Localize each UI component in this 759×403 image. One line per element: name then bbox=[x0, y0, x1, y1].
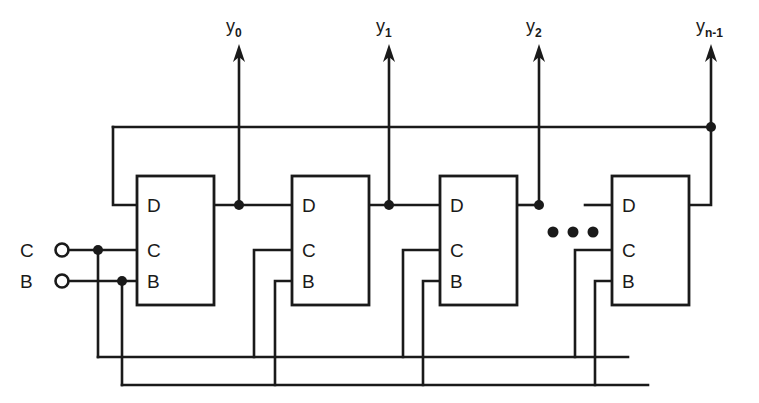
ellipsis-dot-3 bbox=[588, 227, 599, 238]
output-label-y1-sub: 1 bbox=[385, 26, 392, 40]
pin-labels-group: D C B D C B D C B D C B bbox=[147, 195, 636, 292]
output-label-y2: y2 bbox=[526, 16, 542, 40]
input-labels-group: C B bbox=[20, 240, 34, 292]
ff1-b-route bbox=[275, 281, 292, 385]
output-label-y0: y0 bbox=[226, 16, 242, 40]
junction-q2-tap bbox=[534, 200, 544, 210]
ffn-pin-b-label: B bbox=[622, 271, 635, 292]
output-label-y1-base: y bbox=[376, 16, 385, 36]
ellipsis-dot-1 bbox=[548, 227, 559, 238]
ff1-pin-c-label: C bbox=[302, 240, 316, 261]
flipflop-boxes-group bbox=[137, 176, 689, 305]
ff2-pin-d-label: D bbox=[450, 195, 464, 216]
ffn-pin-d-label: D bbox=[622, 195, 636, 216]
output-label-y0-sub: 0 bbox=[235, 26, 242, 40]
ff1-control-routing bbox=[254, 250, 292, 385]
c-input-label: C bbox=[20, 240, 34, 261]
junction-qn-tap bbox=[706, 122, 716, 132]
input-terminals-group bbox=[56, 244, 138, 386]
ff2-pin-b-label: B bbox=[450, 271, 463, 292]
bottom-buses-group bbox=[98, 357, 648, 385]
circuit-schematic: D C B D C B D C B D C B C B bbox=[0, 0, 759, 403]
output-label-y2-sub: 2 bbox=[535, 26, 542, 40]
ff0-pin-b-label: B bbox=[147, 271, 160, 292]
ffn-q-to-feedback bbox=[689, 127, 711, 205]
feedback-to-ff0-d bbox=[113, 127, 137, 205]
junction-q0-tap bbox=[234, 200, 244, 210]
output-label-y0-base: y bbox=[226, 16, 235, 36]
ff0-pin-c-label: C bbox=[147, 240, 161, 261]
output-label-yn-1-base: y bbox=[696, 16, 705, 36]
junction-b-input-tap bbox=[117, 276, 127, 286]
ffn-c-route bbox=[575, 250, 612, 357]
circuit-diagram-figure: D C B D C B D C B D C B C B bbox=[0, 0, 759, 403]
ff2-pin-c-label: C bbox=[450, 240, 464, 261]
ffn-control-routing bbox=[575, 250, 612, 385]
ff2-c-route bbox=[403, 250, 440, 357]
junction-c-input-tap bbox=[93, 245, 103, 255]
b-input-terminal[interactable] bbox=[56, 275, 69, 288]
c-input-terminal[interactable] bbox=[56, 244, 69, 257]
ff2-control-routing bbox=[403, 250, 440, 385]
ff2-b-route bbox=[423, 281, 440, 385]
ffn-pin-c-label: C bbox=[622, 240, 636, 261]
ffn-b-route bbox=[595, 281, 612, 385]
output-label-y2-base: y bbox=[526, 16, 535, 36]
ff1-c-route bbox=[254, 250, 292, 357]
output-label-yn-1: yn-1 bbox=[696, 16, 723, 40]
ellipsis-dot-2 bbox=[568, 227, 579, 238]
output-label-y1: y1 bbox=[376, 16, 392, 40]
ff0-pin-d-label: D bbox=[147, 195, 161, 216]
b-input-label: B bbox=[20, 271, 33, 292]
continuation-ellipsis bbox=[548, 227, 599, 238]
output-label-yn-1-sub: n-1 bbox=[705, 26, 723, 40]
ff1-pin-d-label: D bbox=[302, 195, 316, 216]
ff1-pin-b-label: B bbox=[302, 271, 315, 292]
junction-q1-tap bbox=[384, 200, 394, 210]
